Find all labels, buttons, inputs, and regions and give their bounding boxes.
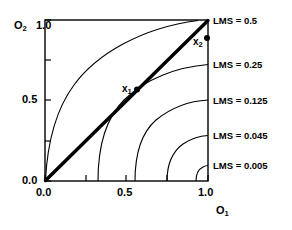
contour-label-lms-0-25: LMS = 0.25 bbox=[213, 60, 262, 70]
data-point-label-x2: x2 bbox=[193, 37, 203, 48]
y-axis-title-text: O bbox=[14, 19, 23, 31]
data-point-label-x2-subscript: 2 bbox=[199, 40, 203, 49]
data-point-x1 bbox=[134, 87, 140, 93]
y-axis-title: O2 bbox=[14, 20, 27, 32]
x-axis-title-text: O bbox=[216, 204, 225, 216]
data-point-label-x1-subscript: 1 bbox=[128, 87, 132, 96]
chart-figure: O2 1.0 0.5 0.0 0.0 0.5 1.0 O1 LMS = 0.5 … bbox=[0, 0, 292, 230]
x-axis-title-subscript: 1 bbox=[225, 209, 229, 218]
data-point-x2 bbox=[204, 35, 210, 41]
data-point-label-x1: x1 bbox=[122, 84, 132, 95]
y-tick-label-top: 1.0 bbox=[36, 20, 51, 31]
y-axis-title-subscript: 2 bbox=[23, 24, 27, 33]
contour-label-lms-0-5: LMS = 0.5 bbox=[213, 16, 257, 26]
x-tick-label-left: 0.0 bbox=[36, 187, 51, 198]
contour-label-lms-0-005: LMS = 0.005 bbox=[213, 161, 268, 171]
contour-label-lms-0-045: LMS = 0.045 bbox=[213, 131, 268, 141]
y-tick-label-bottom: 0.0 bbox=[22, 175, 37, 186]
x-tick-label-right: 1.0 bbox=[198, 187, 213, 198]
y-tick-label-mid: 0.5 bbox=[22, 94, 37, 105]
contour-label-lms-0-125: LMS = 0.125 bbox=[213, 96, 268, 106]
x-axis-title: O1 bbox=[216, 205, 229, 217]
x-tick-label-mid: 0.5 bbox=[117, 187, 132, 198]
